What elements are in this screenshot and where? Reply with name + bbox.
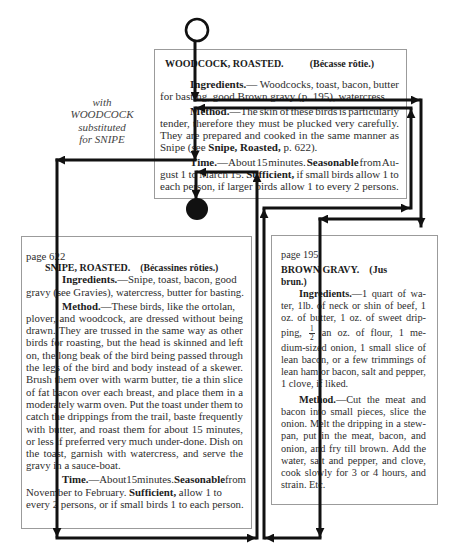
flow-start-circle-icon <box>186 19 208 41</box>
reading-flow-arrows <box>0 0 456 551</box>
flow-end-circle-icon <box>186 198 208 220</box>
